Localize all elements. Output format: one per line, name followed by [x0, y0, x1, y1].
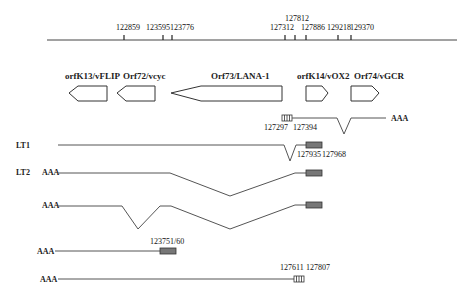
tick-label: 127312	[270, 23, 294, 32]
transcript-label-lt1: LT1	[16, 141, 30, 150]
polya-tail: AAA	[42, 201, 60, 210]
tick-label: 123595	[146, 23, 170, 32]
orf-label-k13: orfK13/vFLIP	[65, 71, 120, 81]
orf-label-73: Orf73/LANA-1	[211, 71, 270, 81]
orf-arrow-right-icon	[351, 86, 379, 101]
exon-block	[306, 202, 322, 208]
coord-label: 127968	[322, 150, 346, 159]
tick-label: 122859	[116, 23, 140, 32]
tick-label: 127812	[285, 14, 309, 23]
polya-tail: AAA	[40, 275, 58, 284]
polya-tail: AAA	[391, 114, 409, 123]
tick-label: 127886	[301, 23, 325, 32]
transcript-3-line	[58, 205, 306, 229]
orf-label-k14: orfK14/vOX2	[297, 71, 350, 81]
orf-arrow-left-icon	[171, 86, 282, 101]
coord-label: 127935	[297, 150, 321, 159]
coord-label: 127611	[280, 263, 304, 272]
orf-arrow-right-icon	[306, 86, 328, 101]
exon-block	[306, 170, 322, 176]
orf-label-72: Orf72/vcyc	[123, 71, 165, 81]
tick-label: 129218	[327, 23, 351, 32]
transcript-lt1-line	[58, 145, 306, 161]
orf-label-74: Orf74/vGCR	[354, 71, 404, 81]
tick-label: 123776	[170, 23, 194, 32]
tick-label: 129370	[350, 23, 374, 32]
transcript-label-lt2: LT2	[16, 168, 30, 177]
coord-label: 127394	[293, 123, 317, 132]
orf-arrow-left-icon	[69, 86, 107, 101]
transcript-lt2-line	[58, 173, 306, 196]
axis-ticks	[124, 35, 351, 40]
coord-label: 127297	[264, 123, 288, 132]
coord-label: 127807	[306, 263, 330, 272]
exon-block	[160, 248, 176, 254]
coord-label: 123751/60	[150, 237, 184, 246]
exon-block	[306, 142, 322, 148]
polya-tail: AAA	[37, 247, 55, 256]
orf-arrow-left-icon	[117, 86, 155, 101]
polya-tail: AAA	[42, 168, 60, 177]
transcript-map-diagram: 122859 123595 123776 127312 127812 12788…	[0, 0, 466, 296]
